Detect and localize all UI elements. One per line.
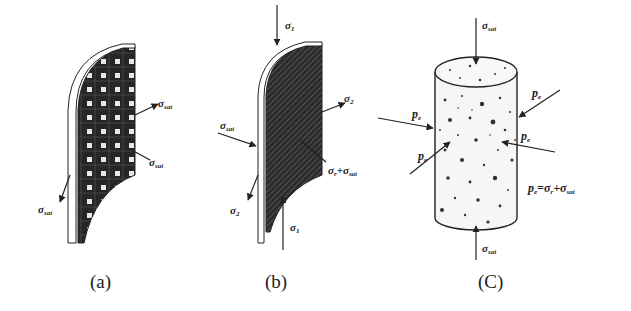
label-c-pe-left-lower: pe [418, 150, 427, 164]
label-b-sigma-1-bottom: σ1 [290, 222, 299, 235]
figure: σsat σsat σsat σ1 σ2 σsat σr+σsat σ2 σ1 … [0, 0, 631, 311]
label-c-pe-equation: pe=σr+σsat [528, 182, 575, 196]
label-c-sigma-sat-bottom: σsat [482, 243, 496, 256]
label-b-sigma-2-right: σ2 [344, 93, 353, 106]
caption-a: (a) [90, 272, 111, 291]
label-c-pe-left-upper: pe [412, 108, 421, 122]
label-a-sigma-sat-right-upper: σsat [158, 98, 172, 111]
label-b-sigma-1-top: σ1 [285, 20, 294, 33]
caption-c: (C) [478, 272, 503, 291]
label-c-pe-right-upper: pe [532, 87, 541, 101]
diagram-canvas [0, 0, 631, 311]
label-b-sigma-sat-left: σsat [220, 120, 234, 133]
label-b-sigma-2-left: σ2 [230, 205, 239, 218]
label-b-sigma-r-plus-sat: σr+σsat [328, 165, 357, 178]
panel-a-membrane [60, 44, 158, 243]
panel-c-cylinder [378, 18, 560, 260]
label-c-pe-right-mid: pe [521, 130, 530, 144]
label-a-sigma-sat-left: σsat [38, 204, 52, 217]
label-a-sigma-sat-right-lower: σsat [149, 157, 163, 170]
label-c-sigma-sat-top: σsat [482, 20, 496, 33]
caption-b: (b) [265, 272, 287, 291]
